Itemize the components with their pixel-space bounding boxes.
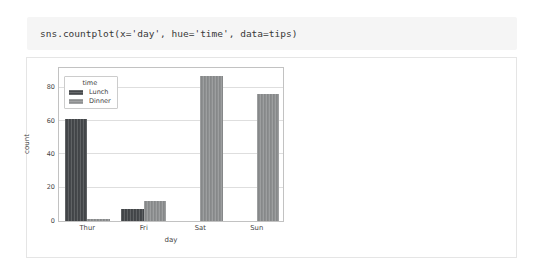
plot-area: time LunchDinner 020406080ThurFriSatSun xyxy=(58,67,284,222)
code-text: sns.countplot(x='day', hue='time', data=… xyxy=(27,28,297,39)
x-tick-label: Sat xyxy=(178,225,222,232)
legend-swatch-dinner xyxy=(69,99,83,104)
legend-item-dinner: Dinner xyxy=(69,98,111,105)
legend-title: time xyxy=(69,79,111,87)
x-axis-label: day xyxy=(131,236,211,244)
gridline xyxy=(59,153,283,154)
y-tick-label: 0 xyxy=(51,218,55,225)
bar-dinner-fri xyxy=(144,201,167,221)
y-tick-label: 20 xyxy=(47,184,55,191)
legend-item-label: Dinner xyxy=(89,98,111,105)
code-cell: sns.countplot(x='day', hue='time', data=… xyxy=(27,17,517,50)
bar-lunch-thur xyxy=(65,119,88,221)
y-tick-label: 60 xyxy=(47,118,55,125)
y-tick-label: 80 xyxy=(47,84,55,91)
legend-item-label: Lunch xyxy=(89,89,108,96)
output-cell: time LunchDinner 020406080ThurFriSatSun … xyxy=(26,57,517,258)
bar-dinner-sat xyxy=(200,76,223,221)
legend-swatch-lunch xyxy=(69,90,83,95)
y-tick-label: 40 xyxy=(47,151,55,158)
legend-item-lunch: Lunch xyxy=(69,89,111,96)
x-tick-label: Fri xyxy=(122,225,166,232)
gridline xyxy=(59,120,283,121)
chart-figure: time LunchDinner 020406080ThurFriSatSun … xyxy=(27,58,347,259)
bar-lunch-fri xyxy=(121,209,144,221)
legend: time LunchDinner xyxy=(64,76,118,109)
x-tick-label: Thur xyxy=(65,225,109,232)
gridline xyxy=(59,187,283,188)
bar-dinner-sun xyxy=(257,94,280,221)
y-axis-label: count xyxy=(23,108,31,180)
bar-dinner-thur xyxy=(87,219,110,221)
x-tick-label: Sun xyxy=(235,225,279,232)
